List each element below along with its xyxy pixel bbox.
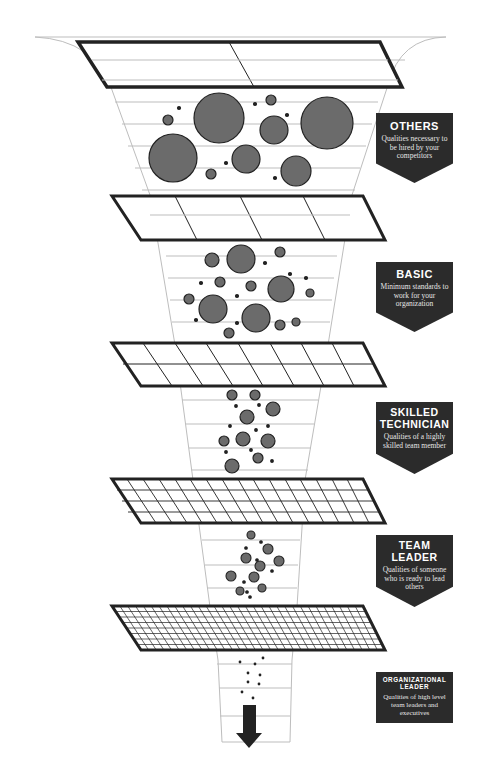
candidates-level-2: [184, 245, 314, 338]
filter-screen-3: [112, 343, 385, 386]
filter-screen-2: [112, 196, 385, 240]
level-title: OTHERS: [376, 113, 453, 132]
level-description: Qualities of high level team leaders and…: [376, 691, 453, 717]
candidates-level-3: [219, 390, 280, 473]
level-description: Qualities of someone who is ready to lea…: [376, 563, 453, 592]
filter-screen-5: [112, 606, 385, 650]
filter-screen-4: [112, 479, 385, 523]
level-description: Minimum standards to work for your organ…: [376, 280, 453, 309]
level-label-organizational-leader: ORGANIZATIONAL LEADER Qualities of high …: [376, 672, 453, 723]
level-title-line-2: LEADER: [376, 552, 453, 564]
level-title-line-1: TEAM: [376, 535, 453, 552]
level-title: BASIC: [376, 262, 453, 280]
level-title-line-1: SKILLED: [376, 402, 453, 419]
level-description: Qualities necessary to be hired by your …: [376, 132, 453, 161]
level-title-line-2: TECHNICIAN: [376, 419, 453, 431]
candidates-level-5: [239, 657, 265, 700]
level-title-line-2: LEADER: [376, 684, 453, 691]
level-description: Qualities of a highly skilled team membe…: [376, 430, 453, 450]
filter-screen-1: [78, 42, 402, 87]
candidates-level-1: [149, 93, 353, 186]
